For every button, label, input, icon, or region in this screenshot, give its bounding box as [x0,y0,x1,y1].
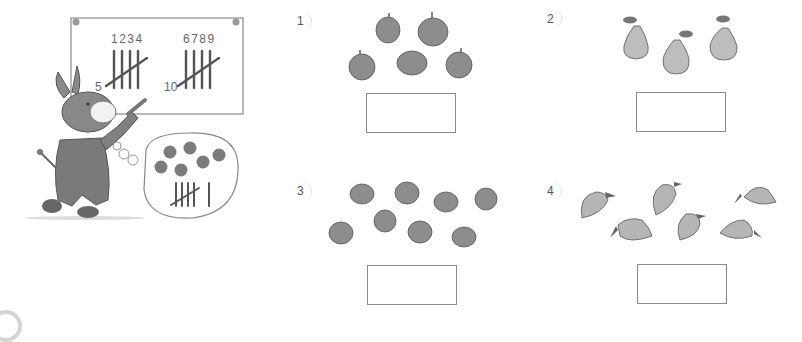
answer-box-2[interactable] [636,92,726,132]
thought-bubble [0,0,260,230]
answer-box-1[interactable] [366,93,456,133]
corner-curl [0,310,22,342]
apples-group [280,0,530,90]
question-2: 2 [530,0,802,160]
question-1: 1 [280,0,530,160]
question-4: 4 [530,170,802,325]
oranges-group [280,170,530,260]
answer-box-4[interactable] [637,264,727,304]
mangoes-group [530,170,802,260]
question-3: 3 [280,170,530,325]
answer-box-3[interactable] [367,265,457,305]
pears-group [530,0,802,90]
example-illustration: 1234 5 6789 10 [0,0,260,230]
